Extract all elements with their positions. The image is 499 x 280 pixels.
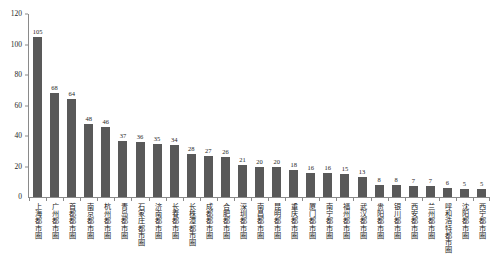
x-axis-tick-mark bbox=[217, 198, 218, 201]
x-axis-tick-mark bbox=[319, 198, 320, 201]
bar-slot[interactable]: 18 bbox=[285, 14, 302, 197]
x-axis-tick-mark bbox=[200, 198, 201, 201]
bar-value-label: 26 bbox=[222, 149, 229, 156]
x-axis-category-label: 石家庄都市圈 bbox=[136, 203, 144, 246]
x-axis-tick-mark bbox=[302, 198, 303, 201]
x-axis-tick-mark bbox=[422, 198, 423, 201]
x-axis-tick-slot bbox=[388, 198, 405, 201]
x-axis-tick-mark bbox=[97, 198, 98, 201]
bar-slot[interactable]: 6 bbox=[439, 14, 456, 197]
x-axis-category-slot: 合肥都市圈 bbox=[217, 203, 234, 277]
bar[interactable] bbox=[460, 189, 469, 197]
bar[interactable] bbox=[340, 174, 349, 197]
x-axis-category-label: 首都都市圈 bbox=[68, 203, 76, 239]
bar[interactable] bbox=[392, 185, 401, 197]
bar[interactable] bbox=[255, 167, 264, 198]
bar[interactable] bbox=[375, 185, 384, 197]
bar-value-label: 35 bbox=[154, 136, 161, 143]
bar-slot[interactable]: 16 bbox=[302, 14, 319, 197]
bar-slot[interactable]: 20 bbox=[268, 14, 285, 197]
bar[interactable] bbox=[443, 188, 452, 197]
bar-slot[interactable]: 8 bbox=[371, 14, 388, 197]
x-axis-category-slot: 济南都市圈 bbox=[149, 203, 166, 277]
x-axis-category-label: 西宁都市圈 bbox=[478, 203, 486, 239]
bar[interactable] bbox=[118, 141, 127, 197]
x-axis-tick-mark bbox=[268, 198, 269, 201]
bar[interactable] bbox=[101, 127, 110, 197]
bar-slot[interactable]: 5 bbox=[456, 14, 473, 197]
bar-slot[interactable]: 16 bbox=[319, 14, 336, 197]
bar[interactable] bbox=[84, 124, 93, 197]
bar[interactable] bbox=[50, 93, 59, 197]
x-axis-tick-mark bbox=[63, 198, 64, 201]
bar[interactable] bbox=[272, 167, 281, 198]
bar-slot[interactable]: 36 bbox=[131, 14, 148, 197]
bar[interactable] bbox=[153, 144, 162, 197]
bar-slot[interactable]: 28 bbox=[183, 14, 200, 197]
bar[interactable] bbox=[221, 157, 230, 197]
x-axis-category-slot: 青岛都市圈 bbox=[114, 203, 131, 277]
x-axis-category-slot: 长株潭都市圈 bbox=[183, 203, 200, 277]
bar-value-label: 21 bbox=[239, 157, 246, 164]
bar-slot[interactable]: 46 bbox=[97, 14, 114, 197]
bar[interactable] bbox=[187, 154, 196, 197]
x-axis-tick-marks bbox=[29, 198, 490, 201]
x-axis-category-label: 呼和浩特都市圈 bbox=[444, 203, 452, 253]
y-axis-tick-label: 100 bbox=[11, 41, 22, 49]
bar-slot[interactable]: 8 bbox=[388, 14, 405, 197]
bar[interactable] bbox=[323, 173, 332, 197]
bar-slot[interactable]: 5 bbox=[473, 14, 490, 197]
bar[interactable] bbox=[289, 170, 298, 197]
bar-value-label: 15 bbox=[342, 166, 349, 173]
bar-slot[interactable]: 105 bbox=[29, 14, 46, 197]
bar[interactable] bbox=[477, 189, 486, 197]
bar[interactable] bbox=[136, 142, 145, 197]
bar[interactable] bbox=[238, 165, 247, 197]
x-axis-tick-slot bbox=[63, 198, 80, 201]
x-axis-tick-slot bbox=[268, 198, 285, 201]
bar-value-label: 7 bbox=[412, 178, 415, 185]
bar-slot[interactable]: 37 bbox=[114, 14, 131, 197]
x-axis-tick-mark bbox=[251, 198, 252, 201]
x-axis-tick-mark bbox=[336, 198, 337, 201]
x-axis-category-slot: 杭州都市圈 bbox=[97, 203, 114, 277]
bar-slot[interactable]: 64 bbox=[63, 14, 80, 197]
bar[interactable] bbox=[306, 173, 315, 197]
bar[interactable] bbox=[33, 37, 42, 197]
bar-slot[interactable]: 7 bbox=[405, 14, 422, 197]
bar[interactable] bbox=[426, 186, 435, 197]
bar-slot[interactable]: 48 bbox=[80, 14, 97, 197]
y-axis-tick-label: 80 bbox=[15, 71, 23, 79]
bar-slot[interactable]: 34 bbox=[166, 14, 183, 197]
bar-slot[interactable]: 7 bbox=[422, 14, 439, 197]
bar-value-label: 5 bbox=[480, 181, 483, 188]
x-axis-tick-slot bbox=[97, 198, 114, 201]
x-axis-category-label: 福州都市圈 bbox=[341, 203, 349, 239]
bar-value-label: 28 bbox=[188, 146, 195, 153]
bar-value-label: 68 bbox=[51, 85, 58, 92]
bar-value-label: 13 bbox=[359, 169, 366, 176]
bar-slot[interactable]: 20 bbox=[251, 14, 268, 197]
bar-slot[interactable]: 35 bbox=[149, 14, 166, 197]
bar[interactable] bbox=[204, 156, 213, 197]
bar[interactable] bbox=[358, 177, 367, 197]
bar[interactable] bbox=[67, 99, 76, 197]
bar-slot[interactable]: 68 bbox=[46, 14, 63, 197]
bar-slot[interactable]: 26 bbox=[217, 14, 234, 197]
x-axis-category-label: 武汉都市圈 bbox=[358, 203, 366, 239]
x-axis-tick-mark bbox=[114, 198, 115, 201]
x-axis-category-label: 厦门都市圈 bbox=[307, 203, 315, 239]
bar[interactable] bbox=[170, 145, 179, 197]
x-axis-category-label: 广州都市圈 bbox=[51, 203, 59, 239]
bar-slot[interactable]: 27 bbox=[200, 14, 217, 197]
x-axis-tick-slot bbox=[234, 198, 251, 201]
bar-slot[interactable]: 13 bbox=[353, 14, 370, 197]
bar[interactable] bbox=[409, 186, 418, 197]
bar-slot[interactable]: 15 bbox=[336, 14, 353, 197]
bar-value-label: 48 bbox=[86, 116, 93, 123]
bar-slot[interactable]: 21 bbox=[234, 14, 251, 197]
bar-value-label: 5 bbox=[463, 181, 466, 188]
x-axis-category-slot: 重庆都市圈 bbox=[285, 203, 302, 277]
x-axis-category-label: 合肥都市圈 bbox=[222, 203, 230, 239]
x-axis-tick-slot bbox=[114, 198, 131, 201]
